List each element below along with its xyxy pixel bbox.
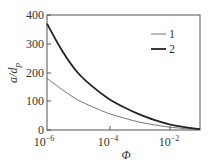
y-tick-100: 100 xyxy=(26,94,44,108)
x-axis-label: Φ xyxy=(121,148,130,162)
x-tick-1e-2: 10−2 xyxy=(159,134,180,149)
svg-text:a/dp: a/dp xyxy=(6,63,22,83)
x-axis: 10−6 10−4 10−2 Φ xyxy=(34,126,180,162)
y-tick-200: 200 xyxy=(26,66,44,80)
chart: 400 300 200 100 0 a/dp 10−6 10−4 10−2 Φ … xyxy=(0,0,212,162)
x-tick-1e-6: 10−6 xyxy=(34,134,55,149)
y-tick-300: 300 xyxy=(26,37,44,51)
series-2-line xyxy=(47,24,200,130)
legend: 1 2 xyxy=(151,27,175,56)
y-tick-400: 400 xyxy=(26,8,44,22)
x-tick-1e-4: 10−4 xyxy=(98,134,119,149)
y-axis-label: a/dp xyxy=(6,63,22,83)
legend-label-1: 1 xyxy=(169,27,175,41)
plot-frame xyxy=(47,15,200,130)
series-1-line xyxy=(47,78,200,129)
legend-label-2: 2 xyxy=(169,42,175,56)
